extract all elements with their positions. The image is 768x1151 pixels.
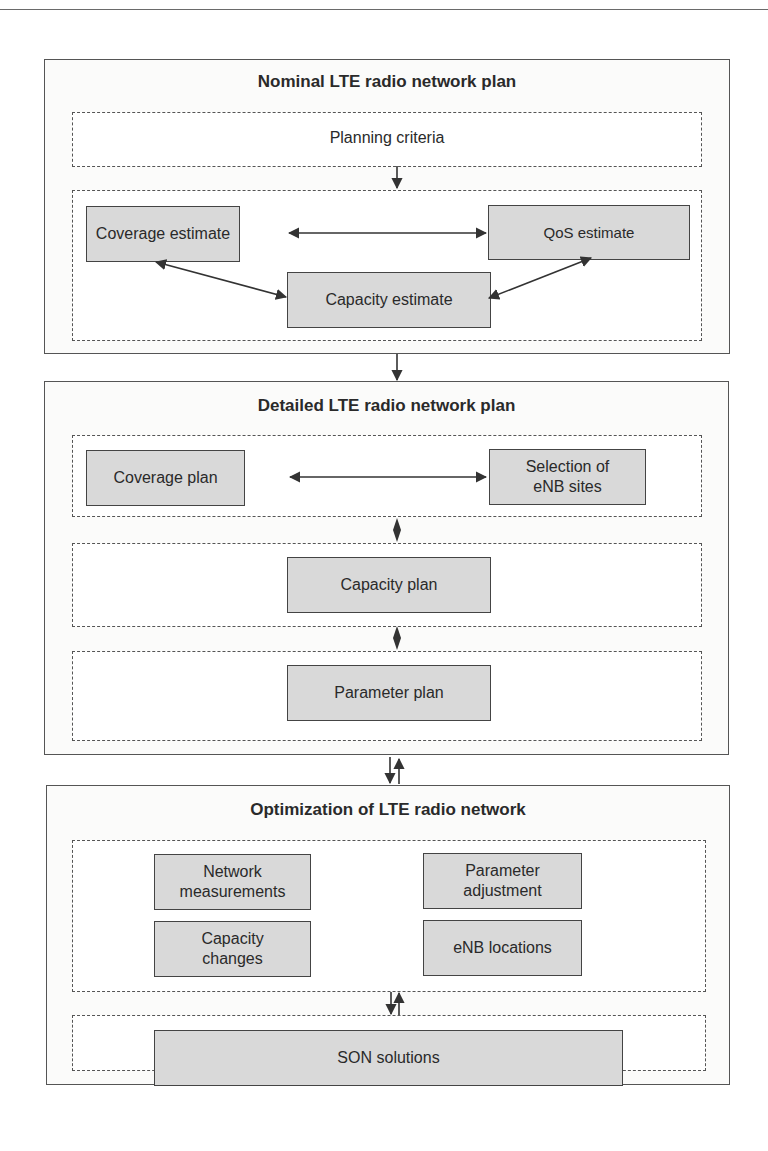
son-solutions-node: SON solutions xyxy=(154,1030,623,1086)
parameter-adjustment-node: Parameter adjustment xyxy=(423,853,582,909)
capacity-plan-node: Capacity plan xyxy=(287,557,491,613)
coverage-estimate-node: Coverage estimate xyxy=(86,206,240,262)
detailed-plan-title: Detailed LTE radio network plan xyxy=(45,396,728,416)
coverage-plan-node: Coverage plan xyxy=(86,450,245,506)
detailed-plan-panel: Detailed LTE radio network plan Coverage… xyxy=(44,381,729,755)
optimization-panel: Optimization of LTE radio network Networ… xyxy=(46,785,730,1085)
enb-locations-node: eNB locations xyxy=(423,920,582,976)
capacity-estimate-node: Capacity estimate xyxy=(287,272,491,328)
qos-estimate-node: QoS estimate xyxy=(488,205,690,260)
planning-criteria-group: Planning criteria xyxy=(72,112,702,167)
nominal-plan-panel: Nominal LTE radio network plan Planning … xyxy=(44,59,730,354)
parameter-plan-node: Parameter plan xyxy=(287,665,491,721)
nominal-plan-title: Nominal LTE radio network plan xyxy=(45,72,729,92)
planning-criteria-label: Planning criteria xyxy=(73,129,701,147)
optimization-title: Optimization of LTE radio network xyxy=(47,800,729,820)
page-header-rule xyxy=(0,9,768,10)
network-measurements-node: Network measurements xyxy=(154,854,311,910)
capacity-changes-node: Capacity changes xyxy=(154,921,311,977)
enb-site-selection-node: Selection of eNB sites xyxy=(489,449,646,505)
